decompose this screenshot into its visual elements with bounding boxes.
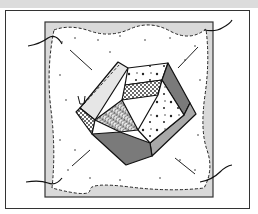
quilt-illustration xyxy=(0,0,258,214)
